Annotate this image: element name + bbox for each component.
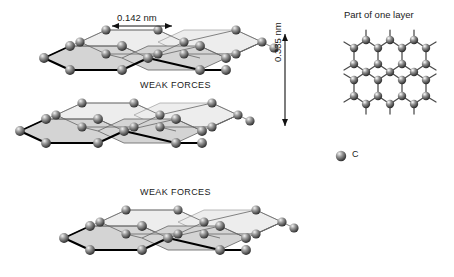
bond-length-label: 0.142 nm [117, 12, 157, 23]
weak-forces-label-upper: WEAK FORCES [140, 80, 211, 90]
single-layer-panel-title: Part of one layer [344, 9, 414, 20]
structure-canvas [0, 0, 454, 277]
single-layer-honeycomb [344, 30, 436, 114]
graphite-layer-middle [15, 98, 255, 147]
weak-forces-label-lower: WEAK FORCES [140, 187, 211, 197]
interlayer-spacing-label: 0.335 nm [272, 22, 283, 62]
bond-length-arrow [112, 23, 172, 29]
graphite-structure-figure: 0.142 nm 0.335 nm WEAK FORCES WEAK FORCE… [0, 0, 454, 277]
graphite-layer-bottom [59, 205, 299, 255]
graphite-layer-top [39, 25, 279, 75]
legend-atom-icon [336, 151, 346, 161]
legend-carbon-label: C [352, 149, 359, 159]
